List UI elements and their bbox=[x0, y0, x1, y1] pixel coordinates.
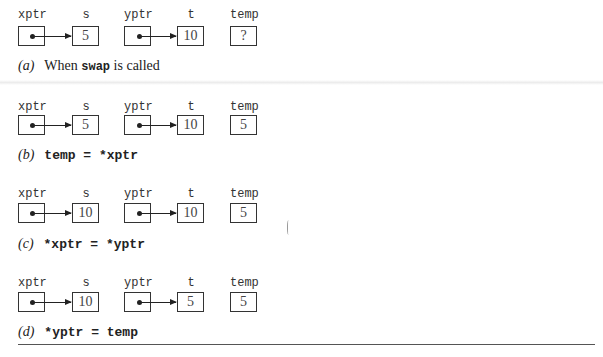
caption-text: is called bbox=[110, 58, 160, 73]
page-separator bbox=[0, 80, 603, 85]
label-t: t bbox=[177, 9, 205, 21]
box-temp: 5 bbox=[230, 292, 257, 312]
label-s: s bbox=[72, 101, 100, 113]
label-t: t bbox=[177, 277, 205, 289]
box-s: 10 bbox=[72, 203, 99, 223]
box-s: 10 bbox=[72, 292, 99, 312]
label-t: t bbox=[177, 101, 205, 113]
arrow-icon bbox=[33, 213, 71, 214]
arrow-icon bbox=[33, 36, 71, 37]
caption-tag: (a) bbox=[18, 58, 34, 73]
box-temp: ? bbox=[230, 26, 257, 46]
label-xptr: xptr bbox=[18, 188, 46, 200]
arrow-icon bbox=[33, 302, 71, 303]
box-temp: 5 bbox=[230, 203, 257, 223]
arrow-icon bbox=[140, 302, 176, 303]
label-yptr: yptr bbox=[124, 277, 152, 289]
label-s: s bbox=[72, 277, 100, 289]
box-s: 5 bbox=[72, 26, 99, 46]
label-yptr: yptr bbox=[124, 188, 152, 200]
label-xptr: xptr bbox=[18, 101, 46, 113]
label-s: s bbox=[72, 188, 100, 200]
caption-tag: (b) bbox=[18, 147, 34, 162]
arrow-icon bbox=[140, 213, 176, 214]
label-temp: temp bbox=[230, 9, 258, 21]
label-temp: temp bbox=[230, 277, 258, 289]
bottom-rule bbox=[18, 344, 595, 345]
caption-d: (d)*yptr = temp bbox=[18, 324, 138, 341]
label-s: s bbox=[72, 9, 100, 21]
caption-code: temp = *xptr bbox=[44, 148, 138, 163]
caption-code: swap bbox=[81, 60, 110, 74]
label-temp: temp bbox=[230, 188, 258, 200]
label-temp: temp bbox=[230, 101, 258, 113]
arrow-icon bbox=[33, 125, 71, 126]
label-t: t bbox=[177, 188, 205, 200]
caption-text: When bbox=[44, 58, 81, 73]
caption-a: (a)When swap is called bbox=[18, 58, 160, 75]
stray-pen-mark bbox=[287, 220, 291, 235]
caption-tag: (c) bbox=[18, 236, 34, 251]
caption-tag: (d) bbox=[18, 324, 34, 339]
caption-code: *yptr = temp bbox=[44, 325, 138, 340]
box-t: 10 bbox=[177, 26, 204, 46]
box-t: 5 bbox=[177, 292, 204, 312]
caption-b: (b)temp = *xptr bbox=[18, 147, 138, 164]
caption-c: (c)*xptr = *yptr bbox=[18, 236, 145, 253]
box-t: 10 bbox=[177, 203, 204, 223]
arrow-icon bbox=[140, 125, 176, 126]
label-xptr: xptr bbox=[18, 277, 46, 289]
label-yptr: yptr bbox=[124, 9, 152, 21]
label-yptr: yptr bbox=[124, 101, 152, 113]
caption-code: *xptr = *yptr bbox=[44, 237, 145, 252]
box-t: 10 bbox=[177, 115, 204, 135]
box-s: 5 bbox=[72, 115, 99, 135]
label-xptr: xptr bbox=[18, 9, 46, 21]
box-temp: 5 bbox=[230, 115, 257, 135]
arrow-icon bbox=[140, 36, 176, 37]
